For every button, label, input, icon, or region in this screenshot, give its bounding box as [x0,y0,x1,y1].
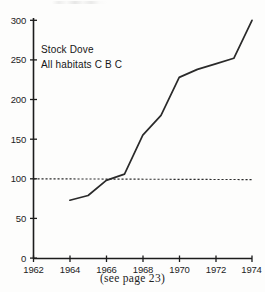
chart-page: 300 250 200 150 100 50 0 1962 1964 1966 … [0,0,265,292]
figure-caption: (see page 23) [0,272,265,284]
line-chart-plot [0,0,265,292]
figure-caption-text: (see page 23) [100,272,165,284]
y-tick-label-100: 100 [0,173,26,184]
y-tick-label-0: 0 [0,253,26,264]
plot-annotations: Stock Dove All habitats C B C [41,42,122,72]
annotation-species-name: Stock Dove [41,42,122,57]
reference-line-100 [34,179,253,180]
y-tick-label-250: 250 [0,54,26,65]
annotation-habitat-survey: All habitats C B C [41,57,122,72]
y-tick-label-300: 300 [0,15,26,26]
y-tick-label-200: 200 [0,94,26,105]
y-tick-label-150: 150 [0,134,26,145]
y-tick-label-50: 50 [0,213,26,224]
